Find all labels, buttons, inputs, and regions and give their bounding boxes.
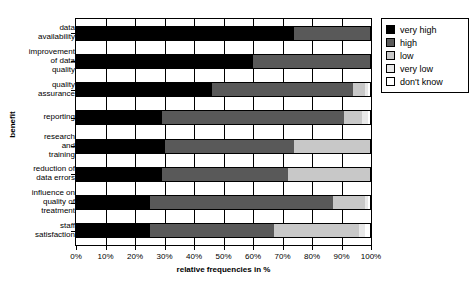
x-axis-tick-label: 20% [120, 252, 150, 261]
bar-row [76, 167, 371, 182]
x-axis-tick-label: 10% [91, 252, 121, 261]
legend-swatch [386, 25, 395, 34]
bar-segment [162, 110, 345, 125]
bar-segment [344, 110, 362, 125]
y-axis-tick [71, 61, 75, 62]
y-axis-tick [71, 231, 75, 232]
legend-swatch [386, 51, 395, 60]
bar-segment [365, 223, 371, 238]
x-axis-tick [106, 246, 107, 250]
legend-item[interactable]: very low [386, 62, 465, 75]
bar-segment [165, 139, 295, 154]
x-axis-tick-label: 30% [150, 252, 180, 261]
bar-segment [288, 167, 371, 182]
bar-row [76, 26, 371, 41]
legend-label: very high [400, 25, 437, 35]
bar-segment [76, 139, 165, 154]
bar-segment [162, 167, 289, 182]
bar-segment [353, 82, 365, 97]
x-axis-tick [253, 246, 254, 250]
legend-swatch [386, 38, 395, 47]
y-axis-label: staffsatisfaction [5, 221, 75, 239]
x-axis-tick [194, 246, 195, 250]
bar-row [76, 223, 371, 238]
bar-segment [368, 110, 371, 125]
bar-segment [294, 139, 371, 154]
bar-segment [368, 82, 371, 97]
plot-area [75, 18, 372, 246]
x-axis-tick [312, 246, 313, 250]
legend-label: low [400, 51, 414, 61]
y-axis-tick [71, 33, 75, 34]
x-axis-tick-label: 90% [327, 252, 357, 261]
bar-row [76, 110, 371, 125]
legend-item[interactable]: low [386, 49, 465, 62]
x-axis-tick-label: 40% [179, 252, 209, 261]
bar-row [76, 139, 371, 154]
x-axis-tick-label: 80% [297, 252, 327, 261]
bar-row [76, 54, 371, 69]
x-axis-tick-label: 0% [61, 252, 91, 261]
bar-segment [76, 195, 150, 210]
bar-segment [76, 82, 212, 97]
bar-segment [150, 223, 274, 238]
y-axis-label: qualityassurance [5, 80, 75, 98]
chart-figure: benefit dataavailabilityimprovementof da… [0, 0, 474, 287]
bar-row [76, 195, 371, 210]
x-axis-tick [165, 246, 166, 250]
y-axis-tick [71, 90, 75, 91]
y-axis-tick [71, 203, 75, 204]
x-axis-tick [76, 246, 77, 250]
legend-item[interactable]: high [386, 36, 465, 49]
bar-segment [274, 223, 360, 238]
legend-label: don't know [400, 77, 443, 87]
x-axis-tick [342, 246, 343, 250]
y-axis-label: dataavailability [5, 23, 75, 41]
bar-segment [253, 54, 371, 69]
bar-segment [294, 26, 371, 41]
y-axis-tick [71, 146, 75, 147]
bar-segment [368, 195, 371, 210]
x-axis-tick-label: 60% [238, 252, 268, 261]
x-axis-tick [135, 246, 136, 250]
x-axis-tick [224, 246, 225, 250]
y-axis-label: reduction ofdata errors [5, 164, 75, 182]
y-axis-label: improvementof dataquality [5, 47, 75, 74]
y-axis-tick [71, 174, 75, 175]
y-axis-label: researchandtraining [5, 132, 75, 159]
legend-label: very low [400, 64, 433, 74]
legend-item[interactable]: don't know [386, 75, 465, 88]
y-axis-label: influence onquality oftreatment [5, 188, 75, 215]
x-axis-tick-label: 70% [268, 252, 298, 261]
legend-swatch [386, 64, 395, 73]
y-axis-label: reporting [5, 112, 75, 121]
x-axis-tick [283, 246, 284, 250]
x-axis-tick-label: 100% [356, 252, 386, 261]
bar-row [76, 82, 371, 97]
legend-label: high [400, 38, 417, 48]
bar-segment [76, 167, 162, 182]
x-axis-tick-label: 50% [209, 252, 239, 261]
bar-segment [212, 82, 354, 97]
y-axis-tick [71, 118, 75, 119]
x-axis-title: relative frequencies in % [75, 265, 372, 274]
bar-segment [333, 195, 365, 210]
legend: very highhighlowvery lowdon't know [381, 18, 469, 93]
legend-item[interactable]: very high [386, 23, 465, 36]
bar-segment [150, 195, 333, 210]
x-axis-tick [371, 246, 372, 250]
bar-segment [76, 26, 294, 41]
bar-segment [76, 110, 162, 125]
bar-segment [76, 223, 150, 238]
legend-swatch [386, 77, 395, 86]
bar-segment [76, 54, 253, 69]
